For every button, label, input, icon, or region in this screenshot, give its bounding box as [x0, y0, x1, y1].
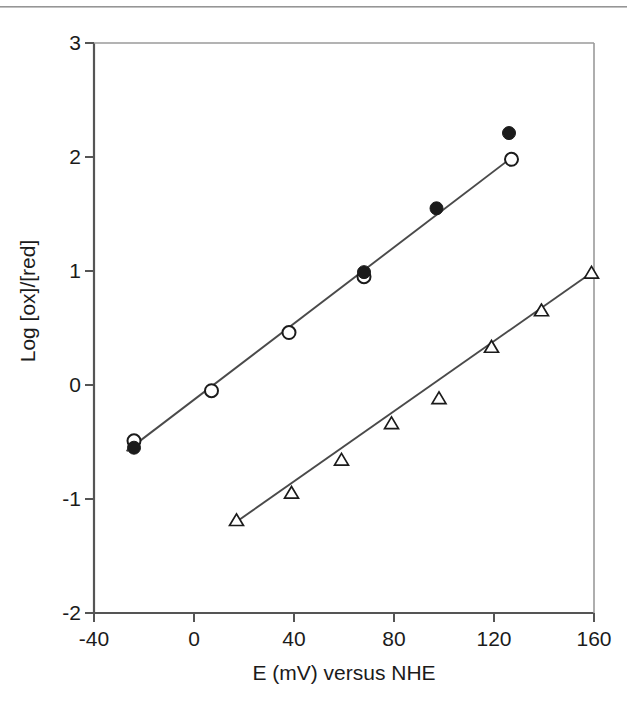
data-point-open-triangle: [535, 304, 549, 316]
plot-axes: [94, 43, 594, 613]
data-markers-group: [128, 127, 599, 526]
data-point-filled-circle: [128, 441, 141, 454]
fit-lines-group: [127, 156, 595, 525]
data-point-filled-circle: [430, 202, 443, 215]
data-point-filled-circle: [503, 127, 516, 140]
figure-container: Log [ox]/[red] E (mV) versus NHE -2-1012…: [0, 0, 627, 707]
data-point-open-circle: [283, 326, 296, 339]
axis-tick-marks: [85, 43, 594, 622]
scatter-plot-canvas: [0, 0, 627, 707]
data-point-open-triangle: [335, 453, 349, 465]
data-point-filled-circle: [358, 266, 371, 279]
data-point-open-circle: [205, 384, 218, 397]
data-point-open-triangle: [585, 266, 599, 278]
data-point-open-triangle: [385, 417, 399, 429]
data-point-open-triangle: [432, 392, 446, 404]
data-point-open-circle: [505, 153, 518, 166]
data-point-open-triangle: [230, 514, 244, 526]
data-point-open-triangle: [285, 486, 299, 498]
upper-fit-line: [127, 156, 515, 451]
